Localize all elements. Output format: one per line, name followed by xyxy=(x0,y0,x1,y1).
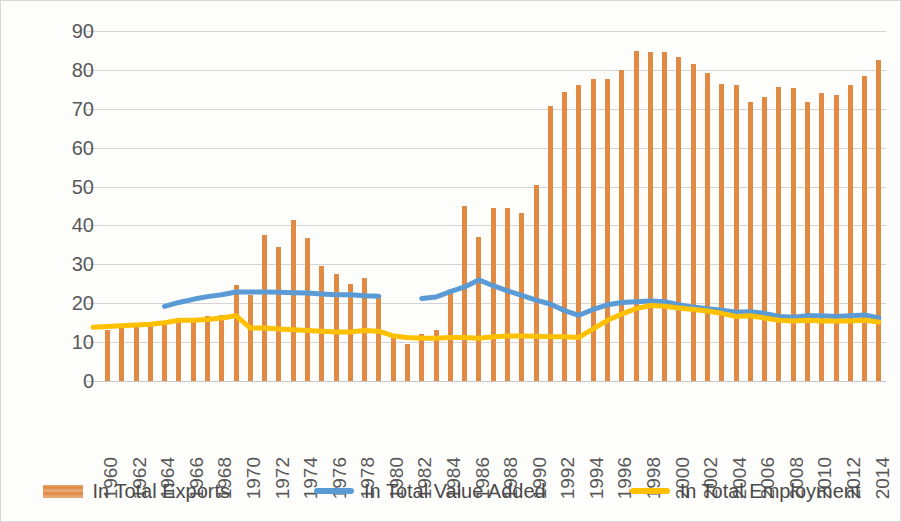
bar-1994 xyxy=(576,85,581,381)
bar-1997 xyxy=(619,70,624,381)
legend-swatch-line-icon xyxy=(314,488,354,494)
legend-swatch-line-icon xyxy=(630,488,670,494)
bar-1991 xyxy=(534,185,539,381)
bar-2012 xyxy=(834,95,839,381)
bar-1964 xyxy=(148,326,153,381)
bar-1970 xyxy=(234,285,239,381)
bar-1975 xyxy=(305,238,310,381)
gridline-80 xyxy=(86,70,886,71)
bar-2011 xyxy=(819,93,824,381)
bar-1995 xyxy=(591,79,596,381)
line-in-total-employment xyxy=(93,306,879,339)
legend-label: In Total Value Added xyxy=(364,480,546,503)
y-axis-tick-90: 90 xyxy=(34,21,94,41)
y-axis-tick-10: 10 xyxy=(34,332,94,352)
bar-1973 xyxy=(276,247,281,381)
bar-2002 xyxy=(691,64,696,381)
bar-1974 xyxy=(291,220,296,381)
gridline-90 xyxy=(86,31,886,32)
y-axis-tick-80: 80 xyxy=(34,60,94,80)
bar-1986 xyxy=(462,206,467,381)
legend-item-1[interactable]: In Total Value Added xyxy=(314,480,546,503)
bar-1961 xyxy=(105,330,110,381)
bar-1965 xyxy=(162,324,167,381)
chart-legend: In Total ExportsIn Total Value AddedIn T… xyxy=(1,471,901,511)
bar-1976 xyxy=(319,266,324,381)
y-axis-tick-50: 50 xyxy=(34,177,94,197)
legend-label: In Total Employment xyxy=(680,480,861,503)
bar-1992 xyxy=(548,106,553,381)
bar-2008 xyxy=(776,87,781,381)
bar-1984 xyxy=(434,330,439,381)
y-axis-tick-60: 60 xyxy=(34,138,94,158)
legend-item-0[interactable]: In Total Exports xyxy=(43,480,230,503)
bar-1968 xyxy=(205,316,210,381)
bar-1979 xyxy=(362,278,367,381)
bar-1990 xyxy=(519,213,524,381)
bar-1993 xyxy=(562,92,567,381)
legend-label: In Total Exports xyxy=(93,480,230,503)
bar-2000 xyxy=(662,52,667,381)
bar-2014 xyxy=(862,76,867,381)
x-axis: 1960196219641966196819701972197419761978… xyxy=(86,385,886,465)
bar-2003 xyxy=(705,73,710,381)
bar-2015 xyxy=(876,60,881,381)
y-axis-tick-30: 30 xyxy=(34,254,94,274)
bar-2013 xyxy=(848,85,853,381)
bar-2010 xyxy=(805,102,810,381)
y-axis-tick-70: 70 xyxy=(34,99,94,119)
chart-container: 0102030405060708090 19601962196419661968… xyxy=(0,0,901,522)
bar-1980 xyxy=(376,296,381,381)
plot-area xyxy=(86,31,886,381)
bar-1989 xyxy=(505,208,510,381)
bar-1981 xyxy=(391,334,396,381)
bar-2005 xyxy=(734,85,739,381)
y-axis-tick-20: 20 xyxy=(34,293,94,313)
bar-2004 xyxy=(719,84,724,382)
bar-1966 xyxy=(176,319,181,381)
bar-2007 xyxy=(762,97,767,381)
bar-1999 xyxy=(648,52,653,381)
bar-1998 xyxy=(634,51,639,381)
y-axis-tick-0: 0 xyxy=(34,371,94,391)
bar-1962 xyxy=(119,328,124,381)
bar-1971 xyxy=(248,295,253,381)
legend-swatch-bar-icon xyxy=(43,485,83,498)
bar-1988 xyxy=(491,208,496,381)
bar-1982 xyxy=(405,344,410,381)
bar-2009 xyxy=(791,88,796,381)
bar-2006 xyxy=(748,102,753,381)
gridline-0 xyxy=(86,381,886,382)
bar-1987 xyxy=(476,237,481,381)
bar-1972 xyxy=(262,235,267,381)
bar-1969 xyxy=(219,315,224,381)
bar-1983 xyxy=(419,334,424,381)
bar-1963 xyxy=(134,327,139,381)
bar-1977 xyxy=(334,274,339,381)
y-axis-tick-40: 40 xyxy=(34,215,94,235)
bar-2001 xyxy=(676,57,681,381)
bar-1996 xyxy=(605,79,610,381)
bar-1985 xyxy=(448,292,453,381)
bar-1967 xyxy=(191,318,196,381)
bar-1978 xyxy=(348,284,353,381)
legend-item-2[interactable]: In Total Employment xyxy=(630,480,861,503)
